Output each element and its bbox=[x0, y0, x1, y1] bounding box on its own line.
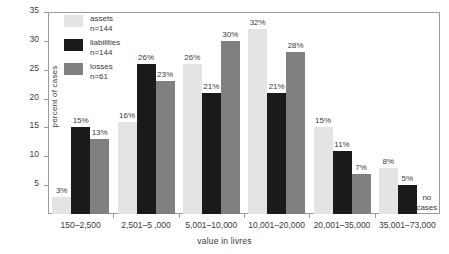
y-tick-30: 30 bbox=[0, 41, 48, 42]
bar-group: 3%15%13% bbox=[52, 12, 109, 214]
bar-liabilities[interactable]: 15% bbox=[71, 127, 90, 214]
bar-losses[interactable]: 13% bbox=[90, 139, 109, 214]
bar-value-label: 16% bbox=[119, 112, 135, 120]
bar-value-label: 7% bbox=[355, 164, 367, 172]
bar-losses[interactable]: 7% bbox=[352, 174, 371, 214]
bar-value-label: 21% bbox=[203, 83, 219, 91]
bar-group: 15%11%7% bbox=[314, 12, 371, 214]
y-tick-label: 15 bbox=[30, 121, 39, 130]
bar-assets[interactable]: 8% bbox=[379, 168, 398, 214]
x-category-label: 5,001–10,000 bbox=[179, 220, 244, 230]
bar-losses[interactable]: 23% bbox=[156, 81, 175, 214]
x-category-label: 35,001–73,000 bbox=[375, 220, 440, 230]
bar-assets[interactable]: 15% bbox=[314, 127, 333, 214]
y-tick-label: 25 bbox=[30, 64, 39, 73]
bar-value-label: 32% bbox=[250, 19, 266, 27]
y-tick-5: 5 bbox=[0, 185, 48, 186]
y-tick-label: 5 bbox=[34, 179, 39, 188]
x-tick-mark bbox=[309, 214, 310, 218]
no-cases-line1: no bbox=[414, 193, 440, 203]
x-category-label: 150–2,500 bbox=[48, 220, 113, 230]
y-tick-label: 10 bbox=[30, 150, 39, 159]
bar-group: 16%26%23% bbox=[118, 12, 175, 214]
bar-assets[interactable]: 26% bbox=[183, 64, 202, 214]
bar-group: 26%21%30% bbox=[183, 12, 240, 214]
bar-value-label: 15% bbox=[73, 117, 89, 125]
bar-group: 8%5%nocases bbox=[379, 12, 436, 214]
x-tick-mark bbox=[113, 214, 114, 218]
no-cases-annotation: nocases bbox=[414, 193, 440, 212]
bar-value-label: 13% bbox=[92, 129, 108, 137]
bar-liabilities[interactable]: 21% bbox=[267, 93, 286, 214]
x-category-label: 2,501–5 ,000 bbox=[113, 220, 178, 230]
bar-group: 32%21%28% bbox=[248, 12, 305, 214]
y-tick-label: 20 bbox=[30, 93, 39, 102]
bar-value-label: 26% bbox=[184, 54, 200, 62]
bar-liabilities[interactable]: 11% bbox=[333, 151, 352, 214]
x-tick-mark bbox=[179, 214, 180, 218]
bar-value-label: 28% bbox=[288, 42, 304, 50]
x-axis-title: value in livres bbox=[0, 236, 449, 246]
y-tick-15: 15 bbox=[0, 127, 48, 128]
bar-value-label: 5% bbox=[402, 175, 414, 183]
x-category-label: 10,001–20,000 bbox=[244, 220, 309, 230]
y-tick-label: 35 bbox=[30, 6, 39, 15]
bar-assets[interactable]: 16% bbox=[118, 122, 137, 214]
bar-value-label: 21% bbox=[269, 83, 285, 91]
bar-value-label: 30% bbox=[222, 31, 238, 39]
x-tick-mark bbox=[375, 214, 376, 218]
bar-value-label: 26% bbox=[138, 54, 154, 62]
bar-value-label: 11% bbox=[334, 141, 349, 149]
y-tick-25: 25 bbox=[0, 70, 48, 71]
y-tick-35: 35 bbox=[0, 12, 48, 13]
bar-losses[interactable]: 28% bbox=[286, 52, 305, 214]
bar-liabilities[interactable]: 26% bbox=[137, 64, 156, 214]
y-tick-20: 20 bbox=[0, 99, 48, 100]
bar-value-label: 8% bbox=[383, 158, 395, 166]
grouped-bar-chart: percent of cases 5101520253035 assetsn=1… bbox=[0, 0, 449, 254]
y-tick-10: 10 bbox=[0, 156, 48, 157]
plot-area: 3%15%13%16%26%23%26%21%30%32%21%28%15%11… bbox=[48, 12, 440, 214]
y-tick-label: 30 bbox=[30, 35, 39, 44]
x-category-label: 20,001–35,000 bbox=[309, 220, 374, 230]
bar-assets[interactable]: 32% bbox=[248, 29, 267, 214]
bar-liabilities[interactable]: 21% bbox=[202, 93, 221, 214]
bar-value-label: 3% bbox=[56, 187, 68, 195]
bar-assets[interactable]: 3% bbox=[52, 197, 71, 214]
bar-value-label: 23% bbox=[157, 71, 173, 79]
bar-value-label: 15% bbox=[315, 117, 331, 125]
x-tick-mark bbox=[244, 214, 245, 218]
no-cases-line2: cases bbox=[414, 203, 440, 213]
bar-losses[interactable]: 30% bbox=[221, 41, 240, 214]
